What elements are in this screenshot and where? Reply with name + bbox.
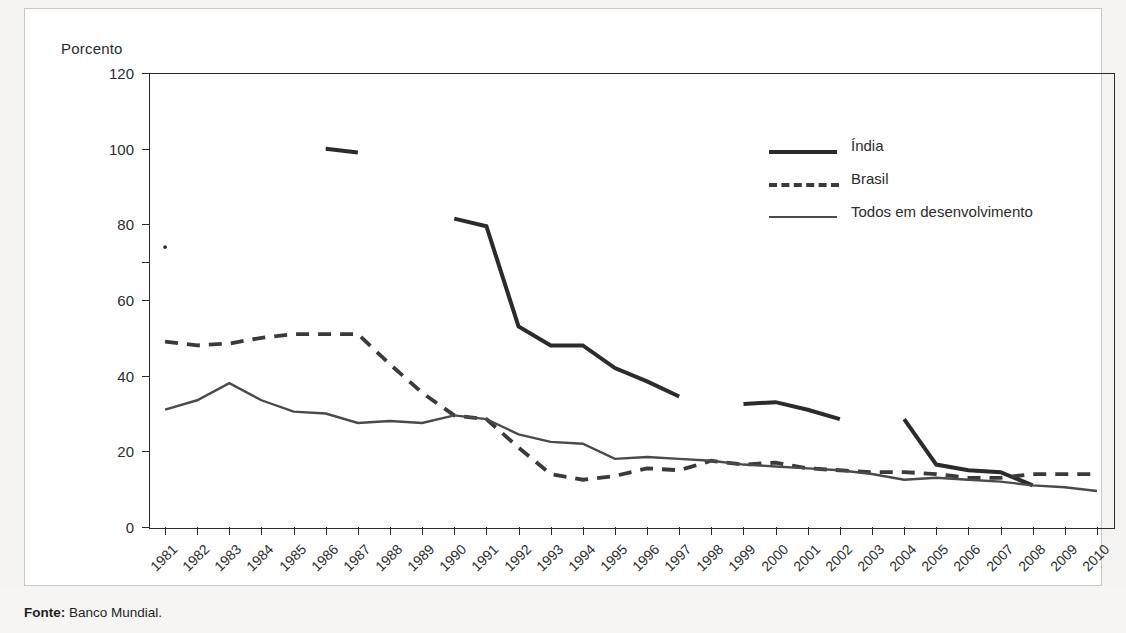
y-tick-mark-minor xyxy=(142,262,149,263)
y-tick-label: 80 xyxy=(64,216,134,233)
x-tick-mark xyxy=(936,527,937,535)
x-tick-mark xyxy=(872,527,873,535)
x-tick-mark xyxy=(422,527,423,535)
x-tick-mark xyxy=(486,527,487,535)
x-tick-mark xyxy=(261,527,262,535)
y-tick-label: 60 xyxy=(64,292,134,309)
legend-label: Índia xyxy=(851,137,884,154)
x-tick-mark xyxy=(904,527,905,535)
x-tick-mark xyxy=(647,527,648,535)
x-tick-mark xyxy=(840,527,841,535)
y-tick-mark xyxy=(142,224,149,225)
source-note: Fonte: Banco Mundial. xyxy=(24,605,162,620)
x-tick-mark xyxy=(197,527,198,535)
y-tick-mark xyxy=(142,149,149,150)
legend-item-1: Índia xyxy=(769,137,1069,170)
x-tick-mark xyxy=(679,527,680,535)
series-line xyxy=(326,149,358,153)
legend-label: Brasil xyxy=(851,170,889,187)
x-tick-mark xyxy=(968,527,969,535)
series-line xyxy=(454,219,679,397)
x-tick-mark xyxy=(326,527,327,535)
x-tick-mark xyxy=(1097,527,1098,535)
x-tick-mark xyxy=(165,527,166,535)
x-tick-mark xyxy=(776,527,777,535)
y-tick-mark xyxy=(142,527,149,528)
series-line xyxy=(743,402,839,419)
y-tick-mark xyxy=(142,376,149,377)
y-tick-label: 0 xyxy=(64,519,134,536)
x-tick-mark xyxy=(551,527,552,535)
y-tick-label: 120 xyxy=(64,65,134,82)
chart-legend: ÍndiaBrasilTodos em desenvolvimento xyxy=(769,137,1069,236)
y-axis-unit-label: Porcento xyxy=(61,40,123,57)
x-tick-mark xyxy=(519,527,520,535)
legend-label: Todos em desenvolvimento xyxy=(851,203,1033,220)
x-tick-label: 1992 xyxy=(491,541,533,583)
x-tick-mark xyxy=(229,527,230,535)
x-tick-label: 2006 xyxy=(941,541,983,583)
x-tick-mark xyxy=(808,527,809,535)
legend-swatch-dashed xyxy=(769,183,839,187)
x-tick-label: 1985 xyxy=(266,541,308,583)
source-note-label: Fonte: xyxy=(24,605,65,620)
x-tick-mark xyxy=(615,527,616,535)
legend-swatch-thick xyxy=(769,150,837,154)
x-tick-label: 2007 xyxy=(973,541,1015,583)
legend-item-2: Brasil xyxy=(769,170,1069,203)
x-tick-label: 1999 xyxy=(716,541,758,583)
x-tick-label: 2000 xyxy=(748,541,790,583)
x-tick-mark xyxy=(1033,527,1034,535)
y-tick-mark xyxy=(142,451,149,452)
x-tick-label: 1991 xyxy=(459,541,501,583)
y-tick-label: 40 xyxy=(64,367,134,384)
chart-card: Porcento 020406080100120 198119821983198… xyxy=(24,8,1102,586)
legend-swatch-thin xyxy=(769,216,837,218)
x-tick-label: 1984 xyxy=(234,541,276,583)
source-note-value: Banco Mundial. xyxy=(65,605,162,620)
paper-texture-band xyxy=(0,586,1126,633)
x-tick-mark xyxy=(1001,527,1002,535)
x-tick-mark xyxy=(390,527,391,535)
y-tick-mark xyxy=(142,73,149,74)
legend-item-3: Todos em desenvolvimento xyxy=(769,203,1069,236)
x-tick-mark xyxy=(711,527,712,535)
y-tick-label: 100 xyxy=(64,140,134,157)
y-tick-mark xyxy=(142,300,149,301)
x-tick-mark xyxy=(294,527,295,535)
x-tick-mark xyxy=(583,527,584,535)
y-tick-label: 20 xyxy=(64,443,134,460)
figure-root: Porcento 020406080100120 198119821983198… xyxy=(0,0,1126,633)
x-tick-mark xyxy=(743,527,744,535)
x-tick-mark xyxy=(358,527,359,535)
x-tick-mark xyxy=(454,527,455,535)
x-tick-mark xyxy=(1065,527,1066,535)
series-point-marker xyxy=(163,245,167,249)
